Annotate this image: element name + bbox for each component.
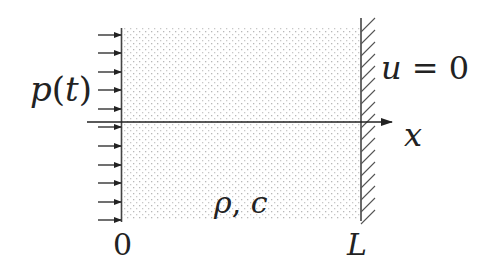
material-label: ρ, c (213, 185, 268, 220)
hatch-line (361, 210, 375, 224)
rigid-wall (361, 18, 375, 224)
hatch-line (361, 78, 375, 92)
hatch-line (361, 114, 375, 128)
hatch-line (361, 198, 375, 212)
hatch-line (361, 162, 375, 176)
hatch-line (361, 126, 375, 140)
pressure-load-arrows (98, 35, 121, 220)
hatch-line (361, 150, 375, 164)
axis-label: x (404, 116, 422, 154)
hatch-line (361, 138, 375, 152)
boundary-condition-label: u = 0 (381, 49, 469, 87)
hatch-line (361, 18, 375, 32)
hatch-line (361, 30, 375, 44)
wall-hatching (361, 18, 375, 224)
hatch-line (361, 90, 375, 104)
hatch-line (361, 186, 375, 200)
hatch-line (361, 102, 375, 116)
hatch-line (361, 66, 375, 80)
load-label: p(t) (30, 69, 92, 109)
diagram-canvas: p(t) u = 0 x ρ, c 0 L (0, 0, 485, 274)
hatch-line (361, 42, 375, 56)
hatch-line (361, 54, 375, 68)
hatch-line (361, 174, 375, 188)
length-label: L (346, 227, 367, 262)
origin-label: 0 (113, 227, 132, 262)
